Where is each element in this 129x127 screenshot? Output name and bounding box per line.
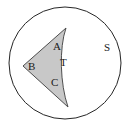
circle-label-s: S bbox=[104, 42, 110, 53]
geometry-figure: A B C T S bbox=[0, 0, 129, 127]
vertex-label-a: A bbox=[53, 41, 61, 52]
vertex-label-c: C bbox=[51, 77, 58, 88]
region-label-t: T bbox=[60, 57, 67, 68]
vertex-label-b: B bbox=[28, 61, 35, 72]
